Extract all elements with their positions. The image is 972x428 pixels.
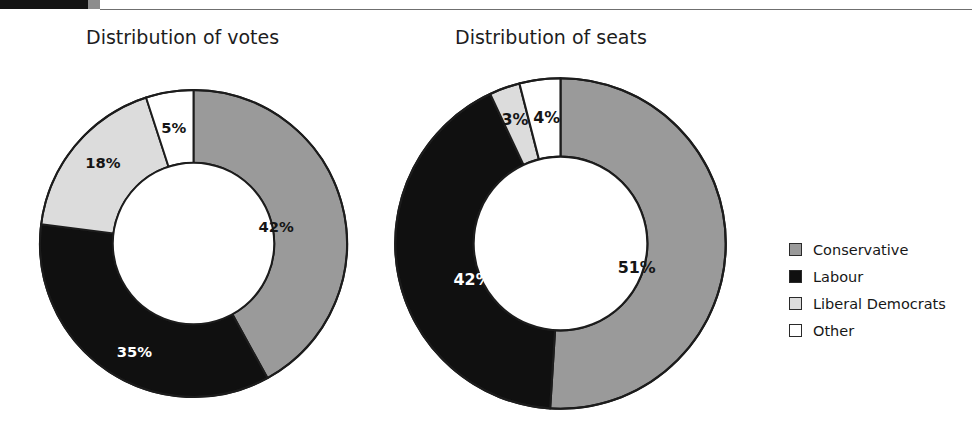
slice-label-votes-labour: 35%	[117, 343, 153, 360]
legend-swatch-other	[789, 324, 802, 337]
chart-title-seats: Distribution of seats	[455, 26, 647, 48]
donut-hole-votes	[113, 163, 274, 324]
donut-chart-votes: 42% 35% 18% 5%	[36, 86, 351, 401]
legend-label-conservative: Conservative	[813, 242, 908, 258]
slice-label-seats-conservative: 51%	[618, 258, 656, 277]
slice-label-seats-libdem: 3%	[501, 110, 528, 129]
page-top-artifact-strip: g p	[0, 0, 972, 13]
slice-label-votes-libdem: 18%	[85, 154, 121, 171]
slice-label-votes-other: 5%	[161, 119, 186, 136]
chart-title-votes: Distribution of votes	[86, 26, 279, 48]
legend-swatch-conservative	[789, 243, 802, 256]
slice-label-seats-other: 4%	[533, 108, 560, 127]
cropped-black-bar	[0, 0, 88, 9]
legend-label-other: Other	[813, 323, 854, 339]
legend-label-liberal-democrats: Liberal Democrats	[813, 296, 946, 312]
legend-item-liberal-democrats: Liberal Democrats	[789, 290, 969, 317]
cropped-gray-bar	[88, 0, 100, 9]
legend-label-labour: Labour	[813, 269, 863, 285]
legend-item-labour: Labour	[789, 263, 969, 290]
legend-item-other: Other	[789, 317, 969, 344]
slice-label-votes-conservative: 42%	[259, 218, 295, 235]
legend-swatch-liberal-democrats	[789, 297, 802, 310]
horizontal-rule	[100, 9, 972, 10]
donut-hole-seats	[474, 157, 648, 331]
donut-chart-seats: 51% 42% 3% 4%	[391, 74, 730, 413]
chart-legend: Conservative Labour Liberal Democrats Ot…	[789, 236, 969, 344]
legend-swatch-labour	[789, 270, 802, 283]
slice-label-seats-labour: 42%	[454, 270, 492, 289]
legend-item-conservative: Conservative	[789, 236, 969, 263]
